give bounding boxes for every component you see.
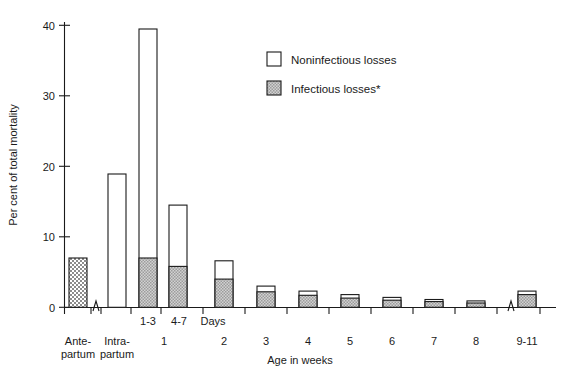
legend-swatch-noninfectious [267, 52, 281, 66]
x-category-label-week-1: 1 [161, 335, 167, 347]
chart-background [0, 0, 567, 374]
x-axis-title: Age in weeks [267, 354, 333, 366]
x-category-label-week-4: 4 [305, 335, 311, 347]
bar-segment-infectious-antepartum [69, 258, 87, 307]
bar-segment-infectious-week-6 [383, 300, 401, 307]
bar-segment-infectious-days-1-3 [139, 258, 157, 307]
bar-segment-infectious-week-7 [425, 302, 443, 308]
bar-segment-noninfectious-intrapartum [108, 174, 126, 307]
y-tick-label-10: 10 [43, 231, 55, 243]
bar-segment-infectious-week-3 [257, 292, 275, 308]
x-category-label-antepartum-line1: Ante- [65, 335, 92, 347]
x-category-label-week-5: 5 [347, 335, 353, 347]
x-sublabel-days-4-7: 4-7 [171, 315, 187, 327]
x-sublabel-days-unit: Days [200, 315, 226, 327]
bar-weeks-9-11 [518, 291, 536, 307]
bar-week-3 [257, 286, 275, 307]
bar-antepartum [69, 258, 87, 307]
bar-segment-infectious-days-4-7 [169, 266, 187, 307]
bar-days-4-7 [169, 205, 187, 307]
bar-week-4 [299, 291, 317, 307]
legend-swatch-infectious [267, 81, 281, 95]
bar-segment-infectious-week-4 [299, 295, 317, 307]
x-category-label-antepartum-line2: partum [61, 348, 95, 360]
bar-week-5 [341, 295, 359, 308]
y-tick-label-20: 20 [43, 161, 55, 173]
x-category-label-intrapartum-line1: Intra- [104, 335, 130, 347]
x-sublabel-days-1-3: 1-3 [140, 315, 156, 327]
bar-days-1-3 [139, 29, 157, 307]
bar-segment-infectious-week-2 [215, 279, 233, 307]
legend-label-noninfectious: Noninfectious losses [291, 54, 397, 66]
x-category-label-intrapartum-line2: partum [100, 348, 134, 360]
bar-intrapartum [108, 174, 126, 307]
x-category-label-week-6: 6 [389, 335, 395, 347]
bar-week-8 [467, 301, 485, 307]
x-category-label-week-3: 3 [263, 335, 269, 347]
y-tick-label-0: 0 [49, 302, 55, 314]
x-category-label-week-9-11: 9-11 [516, 335, 537, 347]
bar-week-7 [425, 300, 443, 308]
mortality-bar-chart: 40 30 20 10 0 Per cent of total mortalit… [0, 0, 567, 374]
bar-segment-infectious-week-5 [341, 298, 359, 307]
bar-segment-infectious-weeks-9-11 [518, 295, 536, 308]
x-category-label-week-7: 7 [431, 335, 437, 347]
bar-segment-infectious-week-8 [467, 303, 485, 307]
y-tick-label-40: 40 [43, 20, 55, 32]
y-axis-title: Per cent of total mortality [7, 104, 19, 226]
bar-week-6 [383, 297, 401, 307]
x-category-label-week-8: 8 [473, 335, 479, 347]
legend-label-infectious: Infectious losses* [291, 83, 381, 95]
bar-week-2 [215, 261, 233, 308]
chart-container: 40 30 20 10 0 Per cent of total mortalit… [0, 0, 567, 374]
x-category-label-week-2: 2 [221, 335, 227, 347]
y-tick-label-30: 30 [43, 90, 55, 102]
